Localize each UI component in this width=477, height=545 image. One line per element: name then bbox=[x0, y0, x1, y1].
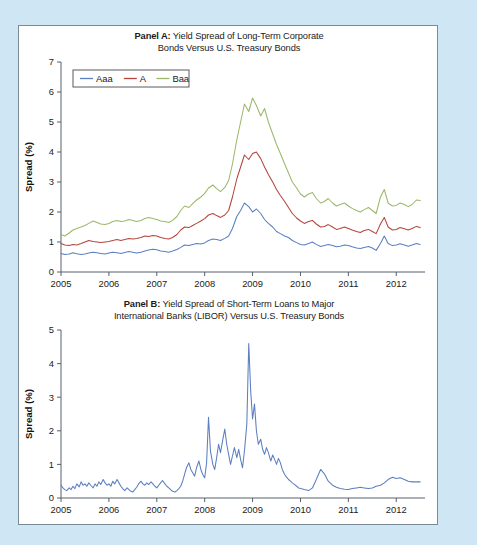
panel-b-svg: 01234520052006200720082009201020112012Sp… bbox=[19, 322, 439, 520]
panel-b-title-rest: Yield Spread of Short-Term Loans to Majo… bbox=[160, 299, 334, 309]
y-axis-title: Spread (%) bbox=[23, 142, 34, 192]
panel-a-title-line2: Bonds Versus U.S. Treasury Bonds bbox=[158, 43, 301, 53]
y-tick-label: 2 bbox=[49, 426, 54, 437]
x-tick-label: 2006 bbox=[98, 278, 119, 289]
panel-a-title: Panel A: Yield Spread of Long-Term Corpo… bbox=[19, 30, 439, 54]
panel-a-title-bold: Panel A: bbox=[134, 31, 170, 41]
legend-label-a: A bbox=[140, 73, 147, 84]
y-tick-label: 4 bbox=[49, 358, 54, 369]
y-tick-label: 7 bbox=[49, 57, 54, 68]
y-tick-label: 0 bbox=[49, 267, 54, 278]
y-tick-label: 1 bbox=[49, 459, 54, 470]
x-tick-label: 2007 bbox=[146, 278, 167, 289]
x-tick-label: 2007 bbox=[146, 504, 167, 515]
x-tick-label: 2012 bbox=[386, 278, 407, 289]
x-tick-label: 2011 bbox=[338, 278, 358, 289]
series-line-aaa bbox=[61, 203, 420, 255]
x-tick-label: 2006 bbox=[98, 504, 119, 515]
y-tick-label: 2 bbox=[49, 207, 54, 218]
x-tick-label: 2008 bbox=[194, 504, 215, 515]
panel-b-title-line2: International Banks (LIBOR) Versus U.S. … bbox=[114, 311, 344, 321]
series-line-a bbox=[61, 152, 420, 246]
y-axis-title: Spread (%) bbox=[23, 389, 34, 439]
x-tick-label: 2005 bbox=[51, 504, 72, 515]
y-tick-label: 3 bbox=[49, 177, 54, 188]
panel-b-plot: 01234520052006200720082009201020112012Sp… bbox=[19, 322, 439, 520]
panel-b-title-bold: Panel B: bbox=[124, 299, 160, 309]
panel-b-title: Panel B: Yield Spread of Short-Term Loan… bbox=[19, 298, 439, 322]
x-tick-label: 2011 bbox=[338, 504, 358, 515]
series-line-libor-spread bbox=[61, 344, 420, 493]
x-tick-label: 2008 bbox=[194, 278, 215, 289]
panel-b: Panel B: Yield Spread of Short-Term Loan… bbox=[19, 298, 439, 524]
x-tick-label: 2012 bbox=[386, 504, 407, 515]
x-tick-label: 2010 bbox=[290, 278, 311, 289]
y-tick-label: 6 bbox=[49, 87, 54, 98]
panel-a: Panel A: Yield Spread of Long-Term Corpo… bbox=[19, 30, 439, 298]
legend-label-aaa: Aaa bbox=[96, 73, 113, 84]
panel-a-svg: 0123456720052006200720082009201020112012… bbox=[19, 54, 439, 294]
legend-label-baa: Baa bbox=[172, 73, 189, 84]
figure-frame: Panel A: Yield Spread of Long-Term Corpo… bbox=[18, 25, 438, 525]
panel-a-plot: 0123456720052006200720082009201020112012… bbox=[19, 54, 439, 294]
x-tick-label: 2005 bbox=[51, 278, 72, 289]
x-tick-label: 2009 bbox=[242, 278, 263, 289]
y-tick-label: 3 bbox=[49, 392, 54, 403]
x-tick-label: 2010 bbox=[290, 504, 311, 515]
y-tick-label: 0 bbox=[49, 493, 54, 504]
y-tick-label: 4 bbox=[49, 147, 54, 158]
panel-a-title-rest: Yield Spread of Long-Term Corporate bbox=[171, 31, 324, 41]
y-tick-label: 1 bbox=[49, 237, 54, 248]
y-tick-label: 5 bbox=[49, 325, 54, 336]
y-tick-label: 5 bbox=[49, 117, 54, 128]
x-tick-label: 2009 bbox=[242, 504, 263, 515]
